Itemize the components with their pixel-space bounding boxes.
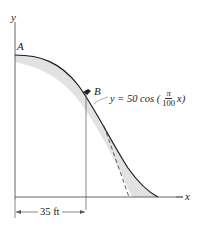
diagram-canvas [0,0,207,232]
dimension-arrow-right [80,210,85,214]
dimension-arrow-left [16,210,21,214]
shaded-slope-region [15,55,158,197]
dimension-label: 35 ft [40,207,60,218]
point-a-label: A [17,41,24,52]
equation-rhs: x) [177,93,185,104]
x-axis-label: x [185,191,190,202]
equation-lhs: y = 50 cos ( [110,93,160,104]
fraction-denominator: 100 [162,99,175,108]
equation-fraction: π 100 [162,89,175,107]
y-axis-label: y [11,12,16,23]
curve-equation: y = 50 cos ( π 100 x) [110,89,185,107]
equation-leader-line [94,97,108,104]
point-b-label: B [94,86,101,97]
